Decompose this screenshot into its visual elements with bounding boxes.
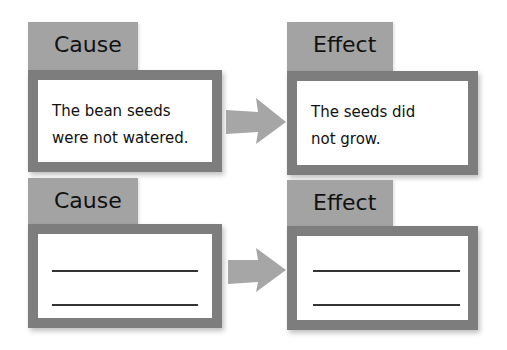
effect-answer-area-2[interactable] (297, 236, 468, 320)
cause-label-2: Cause (54, 188, 122, 213)
cause-box-2 (28, 224, 222, 328)
cause-text-1: The bean seeds were not watered. (52, 98, 189, 152)
effect-box-1: The seeds did not grow. (287, 71, 478, 175)
effect-box-2 (287, 226, 478, 330)
cause-box-1: The bean seeds were not watered. (28, 70, 222, 172)
cause-label-1: Cause (54, 32, 122, 57)
cause-answer-area-2[interactable] (38, 234, 212, 318)
effect-tab-1: Effect (287, 22, 393, 71)
effect-text-1: The seeds did not grow. (311, 99, 415, 153)
effect-label-2: Effect (313, 190, 376, 215)
arrow-icon-2 (228, 248, 290, 294)
arrow-icon-1 (226, 98, 288, 146)
effect-label-1: Effect (313, 32, 376, 57)
answer-line (52, 270, 198, 272)
answer-line (52, 304, 198, 306)
cause-content-1: The bean seeds were not watered. (38, 80, 212, 162)
cause-tab-2: Cause (28, 178, 138, 224)
cause-tab-1: Cause (28, 22, 138, 70)
answer-line (313, 270, 460, 272)
effect-content-1: The seeds did not grow. (297, 81, 468, 165)
effect-tab-2: Effect (287, 180, 393, 226)
answer-line (313, 304, 460, 306)
